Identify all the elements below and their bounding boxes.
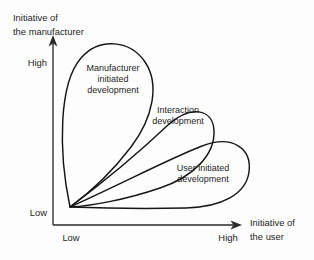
x-axis-title-line2: the user bbox=[250, 231, 284, 242]
petal-label-interaction-line2: development bbox=[152, 116, 204, 126]
petal-label-user-line2: development bbox=[177, 174, 229, 184]
petal-label-manufacturer-line1: Manufacturer bbox=[86, 63, 139, 73]
y-axis-low-label: Low bbox=[30, 207, 47, 218]
petal-label-interaction-line1: Interaction bbox=[157, 105, 199, 115]
axis-group bbox=[49, 35, 242, 229]
petal-label-manufacturer-line3: development bbox=[87, 85, 139, 95]
diagram-canvas: Initiative of the manufacturer High Low … bbox=[0, 0, 314, 260]
x-axis-title-line1: Initiative of bbox=[250, 217, 295, 228]
y-axis-title-line1: Initiative of bbox=[13, 12, 58, 23]
x-axis-low-label: Low bbox=[62, 232, 79, 243]
petal-label-user-line1: User initiated bbox=[177, 163, 230, 173]
petal-label-manufacturer-line2: initiated bbox=[97, 74, 128, 84]
y-axis-title-line2: the manufacturer bbox=[13, 26, 84, 37]
initiative-petal-diagram: Initiative of the manufacturer High Low … bbox=[0, 0, 314, 260]
y-axis-high-label: High bbox=[28, 57, 47, 68]
x-axis-high-label: High bbox=[218, 232, 237, 243]
